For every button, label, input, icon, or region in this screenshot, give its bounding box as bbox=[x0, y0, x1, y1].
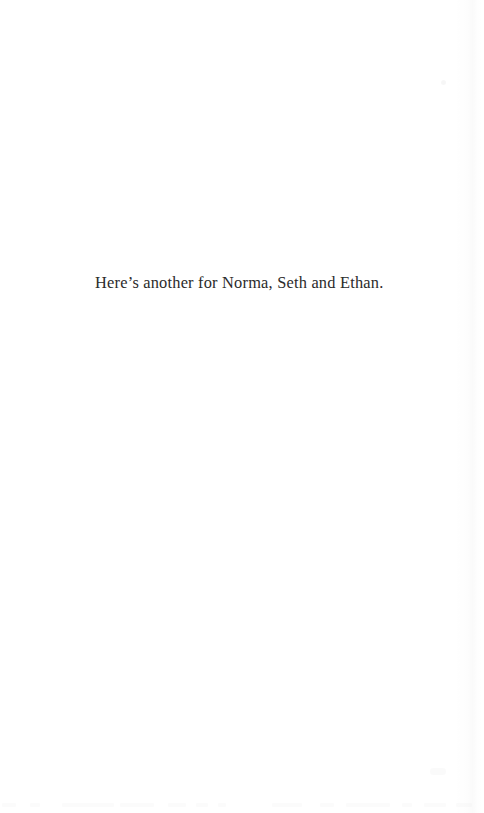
bleed-mark bbox=[402, 803, 412, 807]
dedication-line: Here’s another for Norma, Seth and Ethan… bbox=[95, 272, 395, 294]
bleed-mark bbox=[62, 803, 114, 807]
document-page: Here’s another for Norma, Seth and Ethan… bbox=[0, 0, 484, 813]
bleed-mark bbox=[120, 803, 154, 807]
bleed-through-smudge bbox=[430, 768, 446, 775]
dedication-text-block: Here’s another for Norma, Seth and Ethan… bbox=[95, 272, 395, 294]
bleed-mark bbox=[456, 803, 472, 807]
bleed-mark bbox=[218, 803, 226, 807]
bleed-through-artifacts bbox=[0, 787, 484, 813]
bleed-mark bbox=[424, 803, 446, 807]
bleed-mark bbox=[2, 803, 16, 807]
bleed-mark bbox=[346, 803, 390, 807]
bleed-mark bbox=[196, 803, 208, 807]
bleed-mark bbox=[272, 803, 302, 807]
bleed-mark bbox=[320, 803, 334, 807]
page-edge-shading bbox=[454, 0, 484, 813]
scan-speck-artifact bbox=[441, 80, 446, 85]
bleed-mark bbox=[30, 803, 40, 807]
bleed-mark bbox=[168, 803, 186, 807]
